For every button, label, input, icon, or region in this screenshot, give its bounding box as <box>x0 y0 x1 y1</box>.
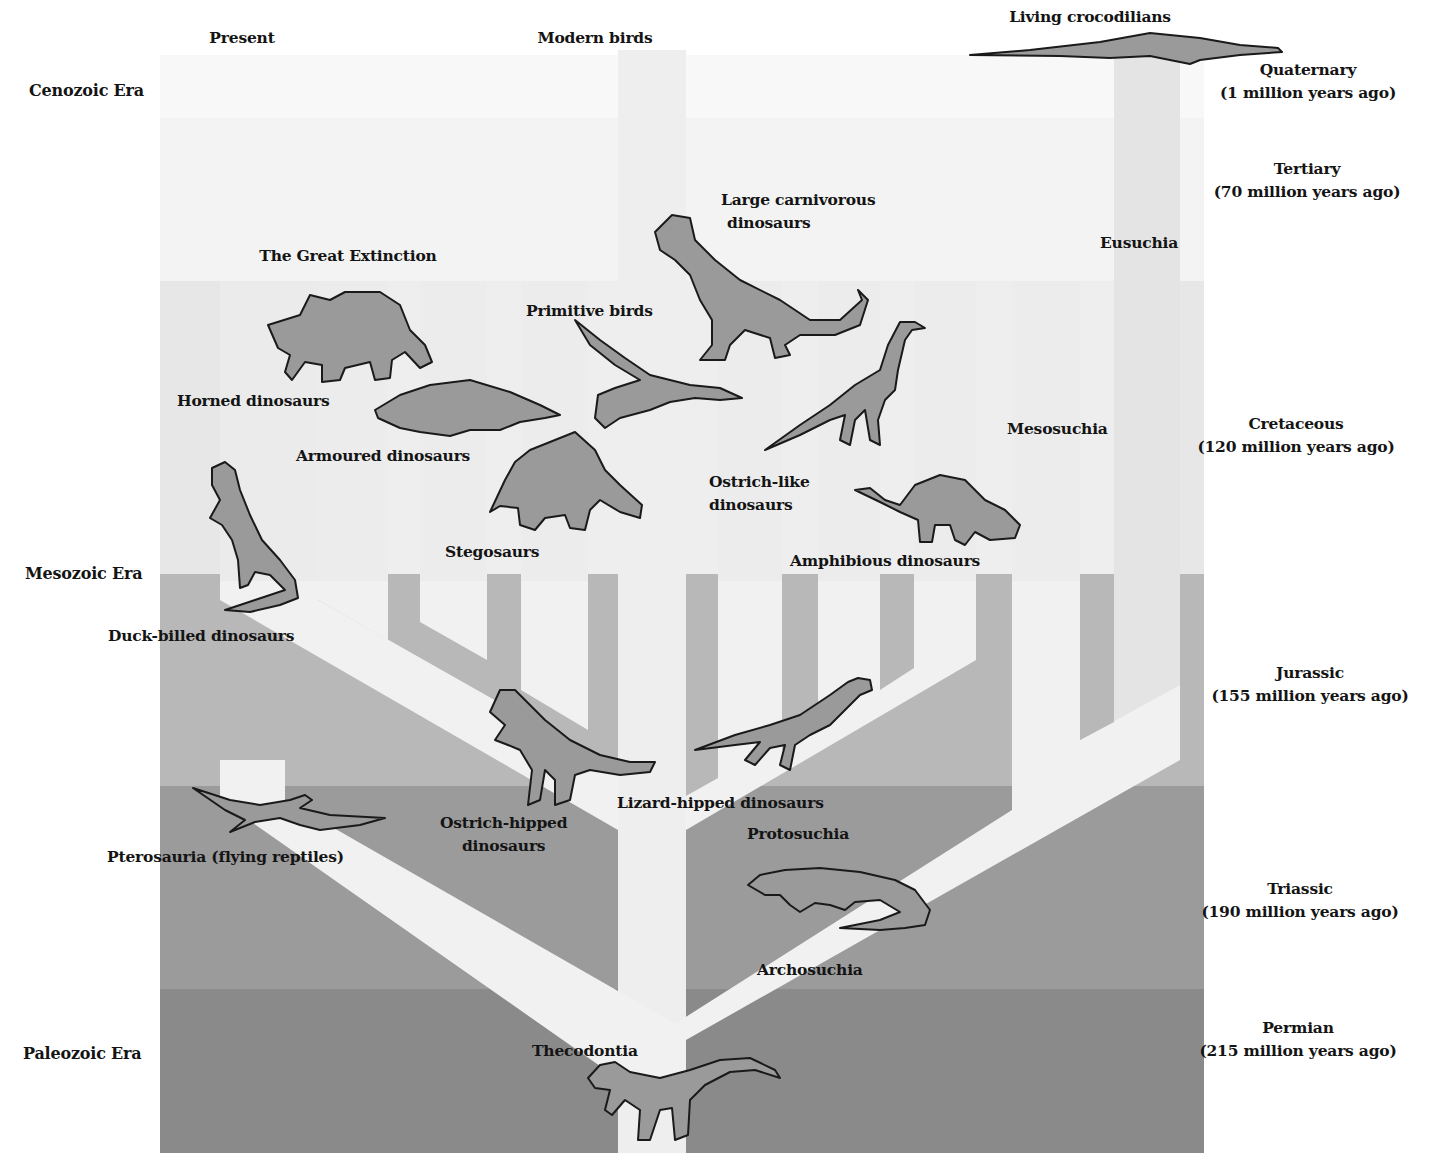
period-quaternary: Quaternary (1 million years ago) <box>1220 58 1396 104</box>
lizard-hipped-dinosaurs-label: Lizard-hipped dinosaurs <box>617 791 824 814</box>
present-label: Present <box>209 26 274 49</box>
modern-birds-label: Modern birds <box>537 26 652 49</box>
primitive-birds-label: Primitive birds <box>526 299 653 322</box>
armoured-dinosaurs-label: Armoured dinosaurs <box>296 444 470 467</box>
period-age: (215 million years ago) <box>1199 1039 1396 1062</box>
eusuchia-label: Eusuchia <box>1100 231 1178 254</box>
cenozoic-era-label: Cenozoic Era <box>29 79 144 102</box>
ostrich-hipped-dinosaurs-label: Ostrich-hipped dinosaurs <box>440 811 567 857</box>
horned-dinosaurs-label: Horned dinosaurs <box>177 389 330 412</box>
protosuchia-label: Protosuchia <box>747 822 849 845</box>
period-name: Permian <box>1199 1016 1396 1039</box>
period-name: Quaternary <box>1220 58 1396 81</box>
period-age: (190 million years ago) <box>1201 900 1398 923</box>
period-name: Jurassic <box>1211 661 1408 684</box>
amphibious-dinosaurs-label: Amphibious dinosaurs <box>790 549 980 572</box>
large-carnivorous-dinosaurs-label: Large carnivorous dinosaurs <box>721 188 875 234</box>
period-jurassic: Jurassic (155 million years ago) <box>1211 661 1408 707</box>
period-tertiary: Tertiary (70 million years ago) <box>1214 157 1401 203</box>
mesosuchia-label: Mesosuchia <box>1007 417 1108 440</box>
period-name: Cretaceous <box>1197 412 1394 435</box>
pterosauria-label: Pterosauria (flying reptiles) <box>107 845 344 868</box>
branch-eusuchia <box>1114 55 1180 755</box>
duck-billed-dinosaurs-label: Duck-billed dinosaurs <box>108 624 294 647</box>
period-triassic: Triassic (190 million years ago) <box>1201 877 1398 923</box>
period-age: (70 million years ago) <box>1214 180 1401 203</box>
great-extinction-label: The Great Extinction <box>259 244 436 267</box>
period-age: (120 million years ago) <box>1197 435 1394 458</box>
period-age: (1 million years ago) <box>1220 81 1396 104</box>
period-cretaceous: Cretaceous (120 million years ago) <box>1197 412 1394 458</box>
period-permian: Permian (215 million years ago) <box>1199 1016 1396 1062</box>
living-crocodilians-label: Living crocodilians <box>1009 5 1171 28</box>
period-name: Triassic <box>1201 877 1398 900</box>
period-age: (155 million years ago) <box>1211 684 1408 707</box>
ostrich-like-dinosaurs-label: Ostrich-like dinosaurs <box>709 470 810 516</box>
paleozoic-era-label: Paleozoic Era <box>23 1042 141 1065</box>
stegosaurs-label: Stegosaurs <box>445 540 539 563</box>
thecodontia-label: Thecodontia <box>532 1039 638 1062</box>
mesozoic-era-label: Mesozoic Era <box>25 562 142 585</box>
period-name: Tertiary <box>1214 157 1401 180</box>
archosuchia-label: Archosuchia <box>757 958 863 981</box>
